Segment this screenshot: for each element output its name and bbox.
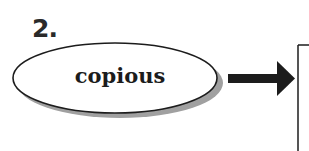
right-arrow-icon: [228, 61, 295, 96]
answer-box: [298, 45, 309, 151]
vocabulary-word: copious: [60, 63, 180, 88]
